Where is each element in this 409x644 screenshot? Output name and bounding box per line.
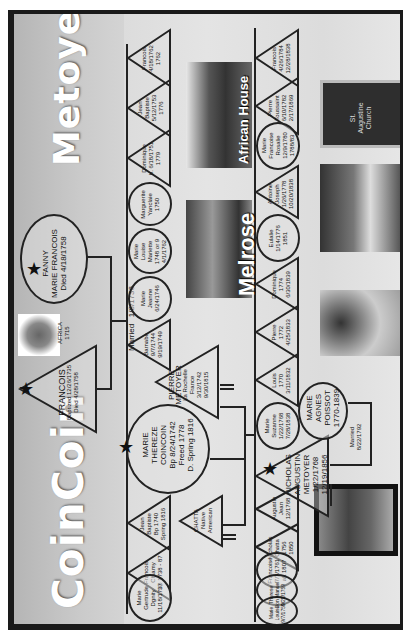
child-line: 6/30/1839	[285, 260, 292, 310]
child-line: Joseph	[274, 169, 281, 219]
sibling-line: Marie	[136, 573, 143, 623]
divorce-mark-3	[222, 534, 236, 536]
pierre-line: 9/30/1815	[203, 350, 210, 420]
sibling-line: 6/24/1746	[154, 274, 161, 324]
sibling-line: Baptiste	[144, 83, 151, 133]
agnes-marriage-date: 8/22/1792	[356, 415, 363, 459]
child-text: Marie Louise 9/7/1759	[268, 588, 286, 624]
sibling-line: 1762	[155, 34, 162, 84]
sibling-line: 1748 or 9	[154, 227, 161, 277]
sibling-text: Marie Louise Mariette 1748 or 9 4/1/1762	[133, 227, 168, 277]
chatta-line: American	[207, 496, 214, 546]
sibling-line: 5/12/1753	[151, 83, 158, 133]
agnes-marriage-line-v	[370, 402, 372, 464]
sibling-line: Gertrude	[143, 573, 150, 623]
sibling-text: Dominique b. 6/18/1751 1779	[141, 134, 162, 184]
star-icon: ★	[18, 380, 34, 398]
title-metoyers: Metoyers	[46, 14, 87, 166]
church-line: Augustine	[357, 93, 365, 143]
agnes-line: 1770-1839	[332, 373, 341, 443]
sibling-line: 4/1/1762	[161, 227, 168, 277]
child-text: Pierre 1772 4/25/1833	[271, 308, 292, 358]
union-line-v	[244, 406, 246, 526]
church-text: St. Augustine Church	[349, 93, 373, 143]
sibling-line: Dgnity	[150, 573, 157, 623]
child-line: Dominique	[271, 260, 278, 310]
child-line: 1788/83	[289, 121, 296, 171]
sibling-line: 11/18/1737	[157, 573, 164, 623]
child-line: 3/11/1832	[285, 356, 292, 406]
sibling-line: 1750	[154, 180, 161, 230]
star-icon: ★	[26, 260, 42, 278]
star-icon: ★	[262, 460, 278, 478]
coincoin-line: MARIE	[141, 395, 150, 495]
sibling-line: Jean	[139, 499, 146, 549]
agnes-marriage-label: Married 8/22/1792	[349, 415, 363, 459]
child-text: Louis 1770 3/11/1832	[271, 356, 292, 406]
sibling-text: Marie Jeanne 6/24/1746	[140, 274, 161, 324]
sibling-line: 4/18/1762	[148, 34, 155, 84]
child-line: 1774	[278, 260, 285, 310]
child-line: 1770	[278, 356, 285, 406]
union-line-3	[222, 524, 246, 526]
child-line: 10/20/1838	[288, 169, 295, 219]
marriage-line-h2	[96, 388, 112, 390]
divorce-mark-1	[220, 384, 234, 386]
agnes-line: MARIE	[305, 373, 314, 443]
sibling-line: Marie	[140, 274, 147, 324]
child-line: Pierre	[271, 308, 278, 358]
child-line: Louis	[271, 356, 278, 406]
sibling-text: Marguerite Yanclaie 1750	[140, 180, 161, 230]
sibling-text: Marie Gertrude Dgnity 11/18/1737	[136, 573, 164, 623]
chatta-line: CHATTA	[193, 496, 200, 546]
portrait-photo	[320, 290, 400, 356]
nicholas-line: 1/22/1768	[311, 435, 320, 515]
sibling-line: Marie	[133, 227, 140, 277]
marriage-to-kids	[112, 320, 126, 322]
nicholas-line: METOYER	[302, 435, 311, 515]
fanny-died: Died 4/18/1758	[59, 214, 68, 314]
sibling-text: Jean Baptiste Bp 1740 Spring 1816	[139, 499, 167, 549]
pierre-line: METOYER	[175, 350, 182, 420]
church-building-photo	[320, 164, 400, 252]
agnes-marriage-line-h	[348, 402, 372, 404]
sibling-line: Jeanne	[147, 274, 154, 324]
sibling-line: Bp 1740	[153, 499, 160, 549]
pierre-line: 3/12/1742	[196, 350, 203, 420]
pierre-line: La Rochelle	[182, 350, 189, 420]
francois-died: Died 4/28/1758	[73, 358, 80, 428]
star-icon: ★	[118, 438, 134, 456]
child-line: 1772	[278, 308, 285, 358]
child-text: Dominique 1774 6/30/1839	[271, 260, 292, 310]
marriage-line-h1	[86, 256, 112, 258]
chatta-text: CHATTA Native American	[193, 496, 214, 546]
chatta-line: Native	[200, 496, 207, 546]
sibling-line: Louise	[140, 227, 147, 277]
sibling-line: Barnabe	[143, 320, 150, 370]
pierre-line: France	[189, 350, 196, 420]
sibling-text: Jean Baptiste 5/12/1753 1776	[137, 83, 165, 133]
nicholas-line: 12/19/1856	[320, 435, 329, 515]
sibling-line: 1776	[158, 83, 165, 133]
sibling-line: Baptiste	[146, 499, 153, 549]
divorce-mark-4	[222, 538, 236, 540]
union-line-2	[220, 406, 246, 408]
agnes-text: MARIE AGNES POISSOT 1770-1839	[305, 373, 341, 443]
sibling-line: b. 6/18/1751	[148, 134, 155, 184]
sibling-line: Mariette	[147, 227, 154, 277]
sibling-line: Yanclaie	[147, 180, 154, 230]
fanny-name2: MARIE FRANCOIS	[50, 214, 59, 314]
agnes-marriage-line-h2	[330, 464, 372, 466]
nicholas-to-portrait	[330, 484, 332, 506]
child-line: 4/25/1833	[285, 308, 292, 358]
francois-name: FRANCOIS	[59, 358, 66, 428]
child-line: 1/26/1778	[281, 169, 288, 219]
sibling-line: Jean	[137, 83, 144, 133]
marriage-line-v	[110, 256, 112, 388]
sibling-text: Francois 4/18/1762 1762	[141, 34, 162, 84]
child-line: 9/7/1759	[280, 588, 286, 624]
agnes-line: AGNES	[314, 373, 323, 443]
child-line: Antoine	[267, 169, 274, 219]
sibling-line: Marguerite	[140, 180, 147, 230]
sibling-line: Francois	[141, 34, 148, 84]
